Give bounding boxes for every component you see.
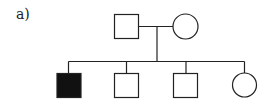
father-square [115, 15, 139, 39]
daughter-circle [233, 73, 257, 97]
affected-son-square [57, 74, 81, 98]
son-3-square [174, 74, 198, 98]
son-2-square [115, 74, 139, 98]
pedigree-diagram [0, 0, 265, 104]
mother-circle [173, 14, 198, 39]
